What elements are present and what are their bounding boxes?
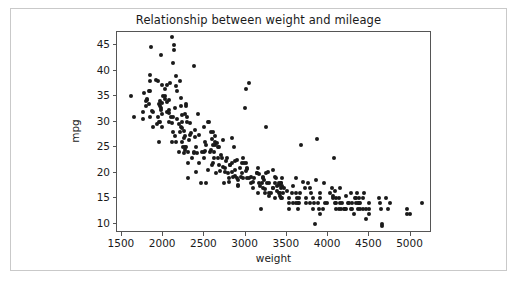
scatter-point: [148, 89, 152, 93]
scatter-point: [180, 140, 184, 144]
scatter-point: [132, 115, 136, 119]
scatter-point: [148, 79, 152, 83]
y-axis-tick-label: 45: [70, 38, 110, 50]
scatter-point: [269, 191, 273, 195]
scatter-point: [147, 102, 151, 106]
y-axis-tick-mark: [113, 44, 117, 45]
scatter-point: [244, 161, 248, 165]
scatter-point: [378, 201, 382, 205]
scatter-point: [194, 145, 198, 149]
scatter-point: [362, 191, 366, 195]
scatter-point: [311, 196, 315, 200]
y-axis-label: mpg: [69, 119, 81, 143]
scatter-point: [316, 201, 320, 205]
scatter-point: [217, 145, 221, 149]
scatter-point: [186, 161, 190, 165]
scatter-point: [224, 159, 228, 163]
scatter-point: [156, 79, 160, 83]
scatter-point: [321, 207, 325, 211]
scatter-point: [214, 171, 218, 175]
scatter-point: [149, 45, 153, 49]
scatter-point: [183, 134, 187, 138]
scatter-point: [314, 178, 318, 182]
x-axis-tick-label: 5000: [380, 237, 440, 249]
scatter-point: [333, 189, 337, 193]
scatter-point: [204, 181, 208, 185]
scatter-point: [212, 150, 216, 154]
scatter-point: [160, 101, 164, 105]
scatter-point: [311, 207, 315, 211]
scatter-point: [367, 201, 371, 205]
scatter-point: [141, 110, 145, 114]
plot-area: [116, 31, 431, 232]
scatter-point: [186, 176, 190, 180]
scatter-point: [173, 106, 177, 110]
scatter-point: [344, 207, 348, 211]
scatter-point: [230, 136, 234, 140]
scatter-point: [243, 106, 247, 110]
scatter-point: [367, 207, 371, 211]
scatter-point: [222, 181, 226, 185]
scatter-point: [405, 207, 409, 211]
scatter-point: [298, 191, 302, 195]
scatter-point: [142, 91, 146, 95]
scatter-point: [160, 112, 164, 116]
scatter-point: [206, 168, 210, 172]
scatter-point: [218, 169, 222, 173]
scatter-point: [299, 143, 303, 147]
scatter-point: [182, 129, 186, 133]
scatter-point: [236, 184, 240, 188]
scatter-point: [241, 176, 245, 180]
scatter-point: [355, 191, 359, 195]
y-axis-tick-mark: [113, 223, 117, 224]
scatter-point: [367, 212, 371, 216]
x-axis-tick-mark: [162, 232, 163, 236]
scatter-point: [172, 48, 176, 52]
scatter-point: [294, 176, 298, 180]
scatter-point: [361, 196, 365, 200]
x-axis-tick-mark: [203, 232, 204, 236]
scatter-point: [177, 150, 181, 154]
scatter-point: [251, 180, 255, 184]
scatter-point: [189, 131, 193, 135]
scatter-point: [170, 121, 174, 125]
scatter-point: [173, 134, 177, 138]
scatter-point: [207, 120, 211, 124]
scatter-point: [178, 130, 182, 134]
scatter-point: [287, 196, 291, 200]
scatter-point: [213, 134, 217, 138]
scatter-point: [185, 115, 189, 119]
scatter-point: [344, 194, 348, 198]
scatter-point: [245, 166, 249, 170]
scatter-point: [291, 184, 295, 188]
scatter-point: [318, 191, 322, 195]
scatter-point: [285, 189, 289, 193]
scatter-point: [184, 145, 188, 149]
scatter-point: [318, 196, 322, 200]
scatter-point: [197, 161, 201, 165]
scatter-point: [280, 176, 284, 180]
scatter-point: [175, 117, 179, 121]
scatter-point: [174, 140, 178, 144]
scatter-point: [160, 125, 164, 129]
scatter-point: [318, 212, 322, 216]
scatter-point: [386, 207, 390, 211]
scatter-point: [294, 191, 298, 195]
y-axis-tick-label: 35: [70, 89, 110, 101]
scatter-point: [172, 43, 176, 47]
scatter-point: [175, 89, 179, 93]
scatter-point: [225, 156, 229, 160]
scatter-point: [274, 176, 278, 180]
scatter-point: [263, 191, 267, 195]
scatter-point: [364, 217, 368, 221]
scatter-point: [263, 187, 267, 191]
scatter-point: [384, 196, 388, 200]
x-axis-tick-mark: [245, 232, 246, 236]
scatter-point: [251, 186, 255, 190]
x-axis-tick-mark: [410, 232, 411, 236]
scatter-point: [338, 186, 342, 190]
screenshot-root: Relationship between weight and mileage …: [0, 0, 517, 282]
scatter-point: [203, 149, 207, 153]
scatter-point: [179, 104, 183, 108]
scatter-point: [309, 191, 313, 195]
